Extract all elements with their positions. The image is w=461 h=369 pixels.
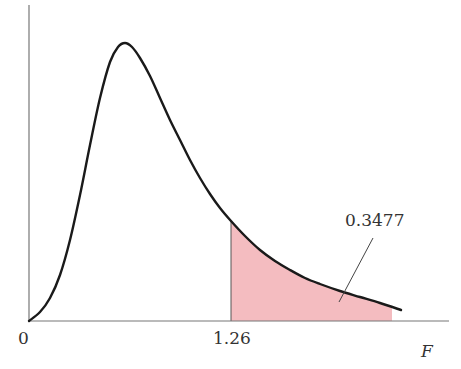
x-axis-title: F xyxy=(421,343,433,360)
f-distribution-chart xyxy=(0,0,461,369)
shaded-tail-area xyxy=(231,221,392,321)
area-value-label: 0.3477 xyxy=(345,212,404,229)
area-leader-line xyxy=(339,238,373,302)
x-tick-label-origin: 0 xyxy=(18,330,29,347)
x-tick-label-critical-value: 1.26 xyxy=(213,330,251,347)
density-curve xyxy=(29,43,401,321)
